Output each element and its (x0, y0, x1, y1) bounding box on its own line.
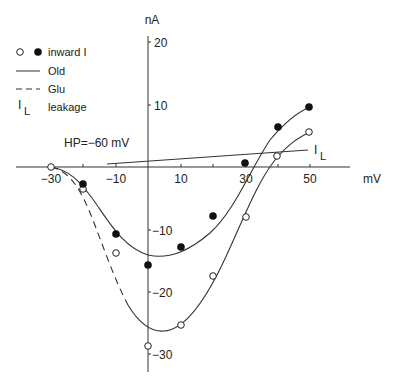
y-tick-labels: 20 10 −10 −20 −30 nA (145, 13, 173, 362)
leakage-label-sub: L (320, 150, 326, 162)
legend-label-inward: inward I (48, 46, 87, 58)
data-point (177, 243, 185, 251)
data-point (274, 123, 282, 131)
axes (16, 36, 350, 372)
y-tick-label: −10 (152, 224, 173, 238)
iv-chart: −30 −10 10 30 50 mV 20 10 −10 −20 −30 nA… (0, 0, 398, 378)
legend-label-leakage: leakage (48, 101, 87, 113)
data-point (274, 153, 281, 160)
open-circle-icon (17, 49, 24, 56)
data-point (144, 261, 152, 269)
x-tick-labels: −30 −10 10 30 50 mV (41, 172, 381, 186)
data-point (178, 322, 185, 329)
data-point (79, 180, 87, 188)
x-tick-label: 30 (239, 172, 253, 186)
y-tick-label: −20 (152, 286, 173, 300)
y-axis-unit: nA (145, 13, 160, 27)
data-point (241, 159, 249, 167)
y-tick-label: 10 (154, 99, 168, 113)
legend-label-glu: Glu (48, 83, 65, 95)
legend-il-main: I (18, 98, 21, 112)
x-tick-label: 50 (303, 172, 317, 186)
data-point (145, 343, 152, 350)
data-point (48, 164, 55, 171)
legend-il-sub: L (24, 105, 30, 117)
x-tick-label: −10 (106, 172, 127, 186)
data-point (210, 273, 217, 280)
data-point (243, 214, 250, 221)
data-point (112, 230, 120, 238)
data-point (209, 212, 217, 220)
x-tick-label: 10 (174, 172, 188, 186)
y-tick-label: −30 (152, 348, 173, 362)
y-tick-label: 20 (154, 36, 168, 50)
x-tick-label: −30 (41, 172, 62, 186)
data-point (306, 129, 313, 136)
leakage-label-main: I (314, 143, 317, 157)
filled-circle-icon (34, 48, 42, 56)
data-point (113, 250, 120, 257)
holding-potential-annotation: HP=−60 mV (64, 136, 129, 150)
data-point (305, 103, 313, 111)
open-circle-points (48, 129, 313, 350)
legend-label-old: Old (48, 65, 65, 77)
legend: inward I Old Glu I L leakage (16, 46, 87, 117)
x-axis-unit: mV (363, 172, 381, 186)
